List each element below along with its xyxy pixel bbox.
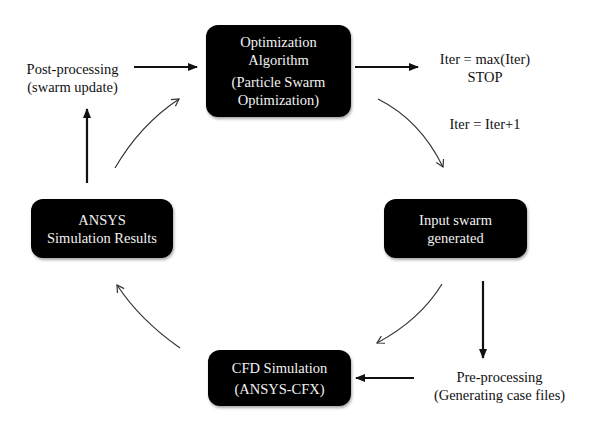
node-cfd-line2: (ANSYS-CFX) — [234, 380, 324, 398]
node-cfd-simulation: CFD Simulation (ANSYS-CFX) — [208, 350, 351, 406]
label-iter-increment: Iter = Iter+1 — [430, 115, 540, 133]
arrow-cfd-to-ansys-curved — [117, 285, 180, 348]
label-post-processing-line2: (swarm update) — [10, 78, 135, 96]
node-ansys-line1: ANSYS — [78, 211, 126, 229]
node-ansys-line2: Simulation Results — [47, 229, 157, 247]
node-optimization-line2: Algorithm — [248, 51, 308, 69]
arrow-opt-to-input-curved — [378, 99, 443, 167]
arrow-input-to-cfd-curved — [377, 284, 442, 343]
node-input-swarm-line2: generated — [427, 229, 483, 247]
node-input-swarm-line1: Input swarm — [419, 211, 492, 229]
label-stop-line2: STOP — [420, 68, 550, 86]
node-cfd-line1: CFD Simulation — [232, 359, 327, 377]
node-optimization-line4: Optimization) — [238, 91, 319, 109]
label-pre-processing: Pre-processing (Generating case files) — [417, 368, 582, 404]
node-optimization-algorithm: Optimization Algorithm (Particle Swarm O… — [206, 25, 351, 117]
label-post-processing-line1: Post-processing — [10, 60, 135, 78]
label-pre-processing-line2: (Generating case files) — [417, 386, 582, 404]
label-post-processing: Post-processing (swarm update) — [10, 60, 135, 96]
node-ansys-simulation-results: ANSYS Simulation Results — [31, 199, 173, 258]
node-input-swarm-generated: Input swarm generated — [384, 199, 527, 258]
node-optimization-line3: (Particle Swarm — [232, 73, 326, 91]
label-stop-line1: Iter = max(Iter) — [420, 50, 550, 68]
label-stop-condition: Iter = max(Iter) STOP — [420, 50, 550, 86]
arrow-ansys-to-opt-curved — [115, 99, 179, 168]
node-optimization-line1: Optimization — [240, 33, 317, 51]
label-pre-processing-line1: Pre-processing — [417, 368, 582, 386]
